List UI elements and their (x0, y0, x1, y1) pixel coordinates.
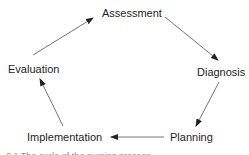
arrow-assessment-to-diagnosis (165, 17, 218, 60)
node-diagnosis: Diagnosis (197, 66, 245, 78)
node-evaluation: Evaluation (8, 63, 59, 75)
figure-caption: 2.1 The cycle of the nursing process (6, 151, 150, 155)
arrow-evaluation-to-assessment (33, 18, 93, 55)
node-planning: Planning (170, 131, 213, 143)
arrow-implementation-to-evaluation (40, 79, 63, 126)
node-implementation: Implementation (27, 131, 102, 143)
arrow-diagnosis-to-planning (196, 82, 219, 126)
node-assessment: Assessment (102, 7, 162, 19)
